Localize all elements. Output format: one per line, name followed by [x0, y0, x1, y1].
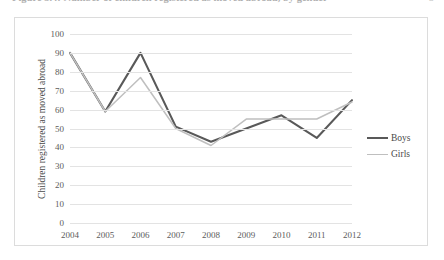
- chart-legend: BoysGirls: [367, 130, 427, 162]
- y-axis-title: Children registered as moved abroad: [35, 34, 49, 223]
- y-axis-tick-label: 0: [60, 218, 65, 228]
- chart-container: Children registered as moved abroad 0102…: [14, 17, 428, 246]
- legend-swatch-icon: [367, 137, 388, 139]
- y-axis-tick-label: 90: [55, 48, 64, 58]
- x-axis-tick-label: 2011: [308, 230, 326, 240]
- gridline: [70, 204, 352, 205]
- y-axis-tick-label: 20: [55, 180, 64, 190]
- x-axis-tick-label: 2006: [132, 230, 150, 240]
- x-axis-tick-label: 2008: [202, 230, 220, 240]
- legend-swatch-icon: [367, 154, 388, 155]
- x-axis-tick-label: 2010: [273, 230, 291, 240]
- plot-area: 0102030405060708090100: [70, 34, 352, 240]
- legend-label: Boys: [391, 133, 411, 143]
- y-axis-tick-label: 10: [55, 199, 64, 209]
- legend-label: Girls: [391, 149, 410, 159]
- y-axis-tick-label: 80: [55, 67, 64, 77]
- y-axis-tick-label: 60: [55, 105, 64, 115]
- gridline: [70, 72, 352, 73]
- gridline: [70, 185, 352, 186]
- y-axis-tick-label: 50: [55, 124, 64, 134]
- y-axis-tick-label: 30: [55, 161, 64, 171]
- x-axis-ticks: 200420052006200720082009201020112012: [70, 230, 352, 244]
- gridline: [70, 223, 352, 224]
- page-marker: 5: [429, 0, 434, 3]
- x-axis-tick-label: 2009: [237, 230, 255, 240]
- x-axis-tick-label: 2005: [96, 230, 114, 240]
- plot-inner: 0102030405060708090100: [70, 34, 352, 223]
- gridline: [70, 34, 352, 35]
- y-axis-tick-label: 100: [51, 29, 65, 39]
- y-axis-tick-label: 40: [55, 142, 64, 152]
- legend-item-girls[interactable]: Girls: [367, 146, 427, 162]
- gridline: [70, 129, 352, 130]
- x-axis-tick-label: 2004: [61, 230, 79, 240]
- gridline: [70, 166, 352, 167]
- x-axis-tick-label: 2007: [167, 230, 185, 240]
- gridline: [70, 91, 352, 92]
- legend-item-boys[interactable]: Boys: [367, 130, 427, 146]
- gridline: [70, 147, 352, 148]
- gridline: [70, 110, 352, 111]
- figure-caption-clip: Figure 3.4: Number of children registere…: [0, 0, 444, 11]
- y-axis-tick-label: 70: [55, 86, 64, 96]
- figure-caption: Figure 3.4: Number of children registere…: [12, 0, 328, 3]
- gridline: [70, 53, 352, 54]
- x-axis-tick-label: 2012: [343, 230, 361, 240]
- y-axis-title-label: Children registered as moved abroad: [37, 59, 47, 199]
